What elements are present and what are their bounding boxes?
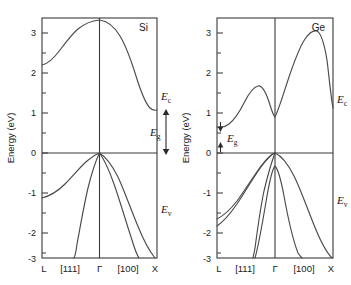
x-tick-label-100: [100] (293, 263, 314, 274)
y-tick-label-m1: -1 (203, 188, 211, 198)
ge-plot-svg: Energy (eV) 3 2 1 0 -1 -2 -3 (175, 0, 351, 285)
material-label-ge: Ge (312, 22, 326, 33)
x-tick-label-X: X (152, 263, 159, 274)
x-tick-label-L: L (216, 263, 221, 274)
ec-label: Ec (160, 90, 172, 105)
si-valence-band-light-hole (100, 153, 140, 258)
y-tick-label-3: 3 (31, 28, 36, 38)
eg-label: Eg (226, 132, 238, 147)
y-axis-title: Energy (eV) (5, 113, 16, 164)
eg-label: Eg (149, 126, 161, 141)
bandgap-arrow-si (163, 109, 170, 155)
si-plot-svg: Energy (eV) 3 2 1 0 -1 -2 -3 (0, 0, 176, 285)
x-tick-label-100: [100] (117, 263, 138, 274)
ge-valence-steep-111 (253, 153, 275, 258)
x-tick-label-111: [111] (235, 263, 255, 274)
x-tick-label-gamma: Γ (97, 263, 102, 274)
y-tick-label-1: 1 (206, 108, 211, 118)
x-tick-label-gamma: Γ (272, 263, 277, 274)
y-tick-label-0: 0 (31, 148, 36, 158)
y-tick-label-m3: -3 (203, 254, 211, 264)
y-tick-label-2: 2 (31, 68, 36, 78)
x-tick-label-111: [111] (60, 263, 80, 274)
band-structure-figure: Energy (eV) 3 2 1 0 -1 -2 -3 (0, 0, 351, 285)
ge-valence-light-hole-111 (217, 153, 275, 226)
x-tick-label-X: X (328, 263, 335, 274)
y-tick-label-3: 3 (206, 28, 211, 38)
ev-label: Ev (336, 194, 348, 209)
ec-label: Ec (336, 93, 348, 108)
y-axis-title: Energy (eV) (180, 113, 191, 164)
y-tick-label-1: 1 (31, 108, 36, 118)
y-tick-label-m1: -1 (28, 188, 36, 198)
y-tick-label-0: 0 (206, 148, 211, 158)
si-valence-band-steep-111 (74, 153, 100, 258)
ge-split-off-band (255, 166, 302, 258)
ge-valence-heavy-hole-100 (275, 153, 332, 258)
y-tick-label-m2: -2 (28, 228, 36, 238)
x-tick-label-L: L (41, 263, 46, 274)
ge-valence-heavy-hole-111 (217, 153, 275, 219)
panel-si: Energy (eV) 3 2 1 0 -1 -2 -3 (0, 0, 176, 285)
bandgap-arrow-ge (218, 122, 224, 152)
panel-ge: Energy (eV) 3 2 1 0 -1 -2 -3 (175, 0, 351, 285)
y-tick-label-m3: -3 (28, 254, 36, 264)
y-tick-label-m2: -2 (203, 228, 211, 238)
ev-label: Ev (160, 203, 172, 218)
material-label-si: Si (139, 22, 148, 33)
y-tick-label-2: 2 (206, 68, 211, 78)
